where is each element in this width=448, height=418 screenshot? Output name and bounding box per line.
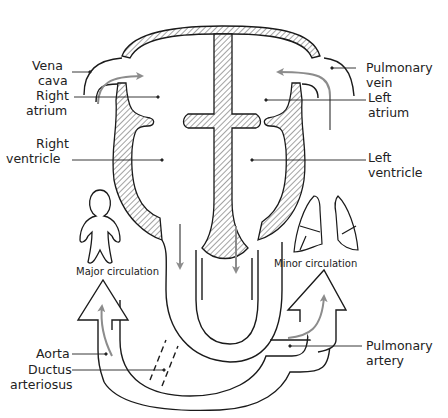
- label-aorta: Aorta: [36, 346, 70, 361]
- label-vena-cava: Vena cava: [30, 58, 68, 88]
- label-right-atrium: Right atrium: [26, 88, 69, 118]
- caption-minor-circulation: Minor circulation: [274, 258, 357, 269]
- caption-major-circulation: Major circulation: [76, 266, 159, 277]
- human-figure-icon: [80, 190, 120, 263]
- label-pulmonary-vein: Pulmonary vein: [366, 60, 433, 90]
- label-pulmonary-artery: Pulmonary artery: [366, 338, 433, 368]
- heart-wall: [113, 26, 320, 259]
- fetal-circulation-diagram: Vena cava Right atrium Right ventricle A…: [0, 0, 448, 418]
- label-left-ventricle: Left ventricle: [368, 150, 423, 180]
- label-ductus-arteriosus: Ductus arteriosus: [10, 362, 73, 392]
- label-left-atrium: Left atrium: [368, 90, 409, 120]
- lungs-icon: [294, 196, 358, 252]
- label-right-ventricle: Right ventricle: [6, 136, 69, 166]
